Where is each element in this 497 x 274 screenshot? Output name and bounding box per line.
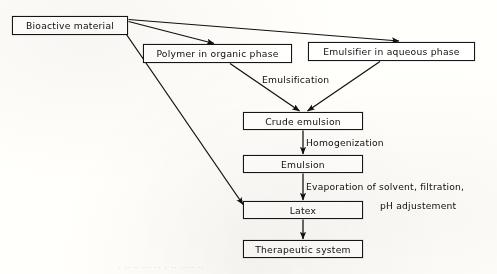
node-label: Polymer in organic phase (156, 48, 278, 59)
node-emulsion[interactable]: Emulsion (243, 155, 363, 173)
edge-label-ph-adjustement: pH adjustement (380, 200, 456, 211)
edge-label-evaporation-filtration: Evaporation of solvent, filtration, (306, 181, 464, 192)
node-label: Bioactive material (26, 20, 114, 31)
node-latex[interactable]: Latex (243, 201, 363, 219)
figure-caption: · ·· · ··· ·· · ·· ···· ·· (118, 264, 204, 272)
node-crude-emulsion[interactable]: Crude emulsion (243, 112, 363, 130)
node-bioactive-material[interactable]: Bioactive material (12, 16, 128, 35)
edge-label-emulsification: Emulsification (262, 74, 329, 85)
edge-label-homogenization: Homogenization (306, 137, 384, 148)
node-polymer-organic-phase[interactable]: Polymer in organic phase (143, 44, 292, 63)
node-label: Emulsifier in aqueous phase (323, 46, 459, 57)
node-label: Therapeutic system (255, 244, 351, 255)
node-label: Crude emulsion (265, 116, 341, 127)
node-label: Latex (290, 205, 317, 216)
edge-bioactive-to-emulsifier (129, 20, 400, 42)
figure-canvas: Bioactive material Polymer in organic ph… (0, 0, 497, 274)
node-label: Emulsion (281, 159, 325, 170)
node-emulsifier-aqueous-phase[interactable]: Emulsifier in aqueous phase (308, 42, 475, 61)
edge-emulsifier-to-crude (308, 62, 381, 112)
node-therapeutic-system[interactable]: Therapeutic system (243, 240, 363, 258)
edge-polymer-to-crude (230, 64, 300, 112)
